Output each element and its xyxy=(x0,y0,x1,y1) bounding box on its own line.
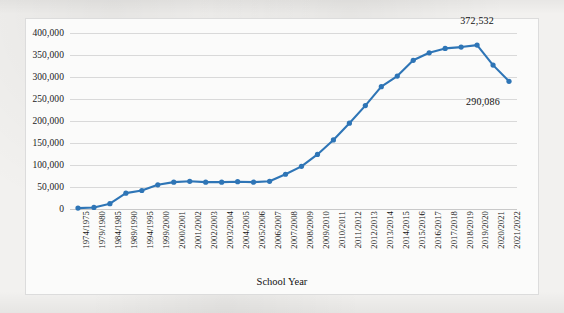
y-axis-tick-label: 100,000 xyxy=(32,160,64,170)
y-axis-tick-label: 400,000 xyxy=(32,28,64,38)
data-point-marker[interactable] xyxy=(490,63,495,68)
data-point-marker[interactable] xyxy=(506,79,511,84)
data-point-marker[interactable] xyxy=(474,42,479,47)
y-axis-tick-label: 350,000 xyxy=(32,50,64,60)
x-axis-tick-label: 2012/2013 xyxy=(369,211,379,249)
gridline xyxy=(70,209,517,210)
x-axis-tick-labels: 1974/19751979/19801984/19851989/19901994… xyxy=(70,211,517,273)
data-point-marker[interactable] xyxy=(411,58,416,63)
x-axis-tick-label: 1979/1980 xyxy=(97,211,107,249)
y-axis-tick-label: 250,000 xyxy=(32,94,64,104)
x-axis-tick-label: 1984/1985 xyxy=(113,211,123,249)
x-axis-tick-label: 2001/2002 xyxy=(193,211,203,249)
x-axis-tick-label: 2002/2003 xyxy=(209,211,219,249)
x-axis-tick-label: 2011/2012 xyxy=(353,211,363,248)
data-point-marker[interactable] xyxy=(315,152,320,157)
x-axis-tick-label: 2009/2010 xyxy=(321,211,331,249)
data-point-marker[interactable] xyxy=(443,46,448,51)
data-point-marker[interactable] xyxy=(395,74,400,79)
data-point-marker[interactable] xyxy=(171,180,176,185)
x-axis-title: School Year xyxy=(26,276,538,287)
data-point-marker[interactable] xyxy=(75,206,80,211)
data-point-marker[interactable] xyxy=(203,180,208,185)
x-axis-tick-label: 2013/2014 xyxy=(385,211,395,249)
data-point-label: 372,532 xyxy=(460,15,494,26)
y-axis-tick-label: 0 xyxy=(59,204,64,214)
x-axis-tick-label: 2019/2020 xyxy=(480,211,490,249)
x-axis-tick-label: 2017/2018 xyxy=(449,211,459,249)
data-point-marker[interactable] xyxy=(155,182,160,187)
data-point-marker[interactable] xyxy=(91,205,96,210)
x-axis-tick-label: 2004/2005 xyxy=(241,211,251,249)
x-axis-tick-label: 1989/1990 xyxy=(129,211,139,249)
x-axis-tick-label: 1974/1975 xyxy=(81,211,91,249)
plot-area: 050,000100,000150,000200,000250,000300,0… xyxy=(70,33,517,209)
x-axis-tick-label: 1994/1995 xyxy=(145,211,155,249)
y-axis-tick-label: 300,000 xyxy=(32,72,64,82)
y-axis-tick-label: 150,000 xyxy=(32,138,64,148)
x-axis-tick-label: 2005/2006 xyxy=(257,211,267,249)
data-point-marker[interactable] xyxy=(347,121,352,126)
x-axis-tick-label: 2020/2021 xyxy=(496,211,506,249)
data-point-marker[interactable] xyxy=(267,179,272,184)
y-axis-tick-label: 50,000 xyxy=(37,182,64,192)
data-point-marker[interactable] xyxy=(363,103,368,108)
data-point-marker[interactable] xyxy=(331,137,336,142)
data-point-marker[interactable] xyxy=(123,191,128,196)
data-point-marker[interactable] xyxy=(283,172,288,177)
data-point-marker[interactable] xyxy=(139,188,144,193)
x-axis-tick-label: 2003/2004 xyxy=(225,211,235,249)
x-axis-tick-label: 1999/2000 xyxy=(161,211,171,249)
x-axis-tick-label: 2008/2009 xyxy=(305,211,315,249)
data-point-marker[interactable] xyxy=(251,180,256,185)
x-axis-tick-label: 2015/2016 xyxy=(417,211,427,249)
data-point-marker[interactable] xyxy=(219,180,224,185)
data-point-marker[interactable] xyxy=(235,179,240,184)
data-point-marker[interactable] xyxy=(107,201,112,206)
chart-frame: 050,000100,000150,000200,000250,000300,0… xyxy=(25,18,539,295)
data-point-marker[interactable] xyxy=(379,84,384,89)
data-point-marker[interactable] xyxy=(299,164,304,169)
x-axis-tick-label: 2021/2022 xyxy=(512,211,522,249)
x-axis-tick-label: 2010/2011 xyxy=(337,211,347,248)
series-line xyxy=(78,45,509,208)
x-axis-tick-label: 2000/2001 xyxy=(177,211,187,249)
data-point-marker[interactable] xyxy=(459,44,464,49)
y-axis-tick-label: 200,000 xyxy=(32,116,64,126)
x-axis-tick-label: 2016/2017 xyxy=(433,211,443,249)
data-point-marker[interactable] xyxy=(427,50,432,55)
line-series-svg xyxy=(70,33,517,209)
x-axis-tick-label: 2006/2007 xyxy=(273,211,283,249)
data-point-label: 290,086 xyxy=(466,96,500,107)
x-axis-tick-label: 2018/2019 xyxy=(465,211,475,249)
data-point-marker[interactable] xyxy=(187,179,192,184)
x-axis-tick-label: 2007/2008 xyxy=(289,211,299,249)
x-axis-tick-label: 2014/2015 xyxy=(401,211,411,249)
